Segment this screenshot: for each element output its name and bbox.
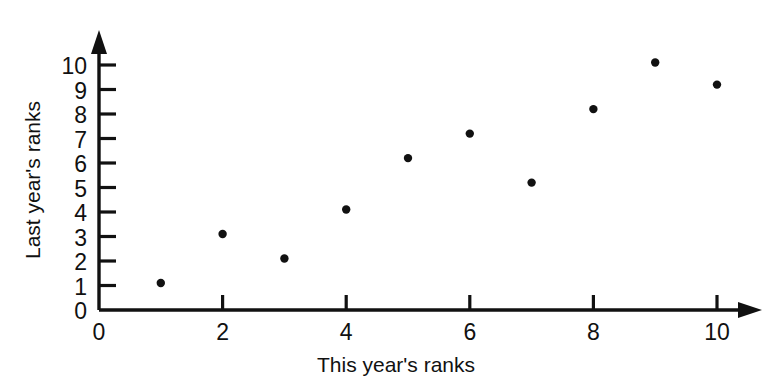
plot-canvas: 012345678910 0246810 This year's ranks L… bbox=[0, 0, 784, 383]
scatter-plot-figure: 012345678910 0246810 This year's ranks L… bbox=[0, 0, 784, 383]
data-point-8 bbox=[589, 105, 597, 113]
y-tick-label-9: 9 bbox=[74, 78, 87, 104]
y-tick-label-5: 5 bbox=[74, 176, 87, 202]
x-tick-label-4: 4 bbox=[340, 319, 353, 345]
data-point-3 bbox=[280, 254, 288, 262]
y-tick-label-0: 0 bbox=[74, 298, 87, 324]
data-point-4 bbox=[342, 205, 350, 213]
y-tick-label-3: 3 bbox=[74, 225, 87, 251]
x-tick-label-0: 0 bbox=[93, 319, 106, 345]
data-point-6 bbox=[466, 129, 474, 137]
data-point-1 bbox=[157, 279, 165, 287]
y-tick-label-8: 8 bbox=[74, 102, 87, 128]
y-tick-label-7: 7 bbox=[74, 127, 87, 153]
data-point-7 bbox=[527, 178, 535, 186]
data-point-2 bbox=[218, 230, 226, 238]
y-tick-label-2: 2 bbox=[74, 249, 87, 275]
y-axis-arrowhead bbox=[91, 30, 107, 54]
x-axis-ticks bbox=[223, 295, 717, 310]
y-axis-ticks bbox=[99, 65, 116, 286]
data-points-group bbox=[157, 58, 722, 287]
x-tick-label-6: 6 bbox=[463, 319, 476, 345]
data-point-5 bbox=[404, 154, 412, 162]
x-axis-arrowhead bbox=[738, 302, 762, 318]
y-tick-label-4: 4 bbox=[74, 200, 87, 226]
x-tick-label-2: 2 bbox=[216, 319, 229, 345]
data-point-9 bbox=[651, 58, 659, 66]
x-tick-label-10: 10 bbox=[704, 319, 730, 345]
axes-group bbox=[91, 30, 762, 318]
y-tick-label-10: 10 bbox=[61, 53, 87, 79]
y-axis-tick-labels: 012345678910 bbox=[61, 53, 87, 324]
y-tick-label-6: 6 bbox=[74, 151, 87, 177]
y-axis-title: Last year's ranks bbox=[21, 101, 44, 259]
data-point-10 bbox=[713, 80, 721, 88]
y-tick-label-1: 1 bbox=[74, 274, 87, 300]
x-axis-title: This year's ranks bbox=[317, 353, 475, 376]
x-tick-label-8: 8 bbox=[587, 319, 600, 345]
x-axis-tick-labels: 0246810 bbox=[93, 319, 730, 345]
